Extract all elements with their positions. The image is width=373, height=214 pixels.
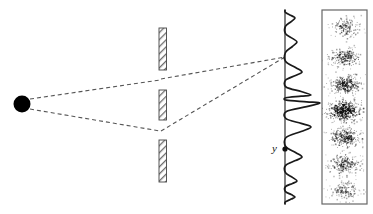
- barrier-top: [159, 28, 167, 70]
- position-label-y: y: [271, 142, 277, 154]
- rays-group: [30, 57, 285, 131]
- detection-screen-panel: [319, 10, 370, 204]
- barrier-bottom: [159, 140, 167, 182]
- double-slit-diagram: y: [0, 0, 373, 214]
- barrier-middle: [159, 90, 167, 120]
- panel-background: [322, 10, 367, 204]
- intensity-curve: [284, 10, 320, 204]
- ray-source-to-upper-slit: [30, 80, 160, 99]
- figure-canvas: y: [0, 0, 373, 214]
- ray-source-to-lower-slit: [30, 109, 160, 131]
- ray-lower-slit-to-screen: [161, 57, 285, 131]
- slit-barrier-group: [159, 28, 167, 182]
- position-marker-dot: [282, 146, 287, 151]
- point-source: [14, 96, 31, 113]
